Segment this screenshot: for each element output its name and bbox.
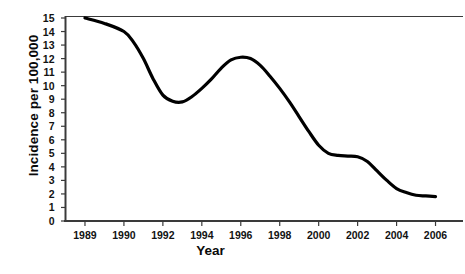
y-tick-label: 14 [33,27,55,37]
y-tick-label: 5 [33,148,55,158]
y-tick-label: 12 [33,54,55,64]
data-series-line [85,18,436,197]
y-tick-label: 15 [33,13,55,23]
y-tick-label: 2 [33,189,55,199]
y-tick-label: 0 [33,216,55,226]
y-tick-label: 1 [33,202,55,212]
y-tick-label: 7 [33,121,55,131]
y-tick-label: 10 [33,81,55,91]
line-chart: 0123456789101112131415 19891990199219941… [0,0,465,274]
y-tick-label: 9 [33,94,55,104]
y-tick-label: 11 [33,67,55,77]
chart-page: Incidence per 100,000 012345678910111213… [0,0,465,274]
y-tick-label: 6 [33,135,55,145]
x-tick-label: 2006 [413,230,459,241]
y-tick-label: 13 [33,40,55,50]
x-axis-title: Year [196,243,225,258]
x-axis-title-container: Year [0,243,465,258]
y-tick-label: 4 [33,162,55,172]
y-tick-label: 8 [33,108,55,118]
y-tick-label: 3 [33,175,55,185]
